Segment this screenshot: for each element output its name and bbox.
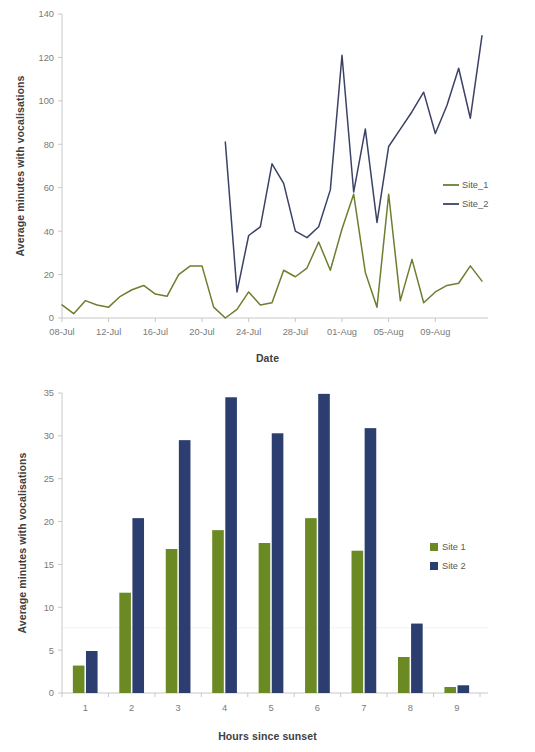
y-tick-label: 100 (38, 96, 54, 106)
bar-site2-hour-5 (272, 433, 284, 693)
x-tick-label: 05-Aug (374, 327, 404, 337)
bar-chart-y-axis-title: Average minutes with vocalisations (16, 453, 28, 634)
bar-chart-figure: 05101520253035123456789Site 1Site 2 Aver… (0, 375, 535, 752)
y-tick-label: 120 (38, 53, 54, 63)
x-tick-label: 28-Jul (283, 327, 308, 337)
legend-label-site_2: Site_2 (462, 199, 488, 209)
x-tick-label: 2 (129, 703, 134, 713)
x-tick-label: 16-Jul (143, 327, 168, 337)
legend-label-site-1: Site 1 (442, 542, 466, 552)
bar-site2-hour-7 (365, 428, 377, 693)
y-tick-label: 80 (44, 140, 54, 150)
y-tick-label: 30 (44, 431, 54, 441)
bar-site2-hour-2 (132, 518, 144, 693)
x-tick-label: 12-Jul (96, 327, 121, 337)
x-tick-label: 1 (83, 703, 88, 713)
x-tick-label: 3 (176, 703, 181, 713)
bar-site1-hour-7 (352, 551, 364, 693)
y-tick-label: 25 (44, 474, 54, 484)
legend-swatch-site-1 (430, 543, 438, 551)
bar-site1-hour-6 (305, 518, 317, 693)
bar-site2-hour-1 (86, 651, 98, 693)
line-chart-y-axis-title: Average minutes with vocalisations (14, 76, 26, 257)
y-tick-label: 35 (44, 388, 54, 398)
bar-chart-canvas: 05101520253035123456789Site 1Site 2 (0, 375, 535, 752)
bar-site1-hour-3 (166, 549, 178, 693)
x-tick-label: 20-Jul (189, 327, 214, 337)
line-series-site_2 (225, 36, 482, 292)
y-tick-label: 60 (44, 183, 54, 193)
y-tick-label: 140 (38, 9, 54, 19)
x-tick-label: 6 (315, 703, 320, 713)
y-tick-label: 20 (44, 517, 54, 527)
y-tick-label: 0 (49, 688, 54, 698)
bar-chart-x-axis-title: Hours since sunset (0, 730, 535, 742)
y-tick-label: 20 (44, 270, 54, 280)
y-tick-label: 10 (44, 603, 54, 613)
x-tick-label: 08-Jul (49, 327, 74, 337)
legend-label-site_1: Site_1 (462, 180, 488, 190)
bar-site1-hour-5 (259, 543, 271, 693)
y-tick-label: 5 (49, 646, 54, 656)
chart-page: 02040608010012014008-Jul12-Jul16-Jul20-J… (0, 0, 535, 752)
bar-site1-hour-2 (119, 593, 131, 693)
x-tick-label: 24-Jul (236, 327, 261, 337)
bar-site1-hour-8 (398, 657, 410, 693)
bar-site2-hour-9 (458, 685, 470, 693)
x-tick-label: 5 (268, 703, 273, 713)
legend-swatch-site-2 (430, 562, 438, 570)
bar-site2-hour-8 (411, 624, 423, 693)
line-chart-x-axis-title: Date (0, 352, 535, 364)
bar-site2-hour-4 (225, 397, 237, 693)
line-chart-figure: 02040608010012014008-Jul12-Jul16-Jul20-J… (0, 0, 535, 375)
line-series-site_1 (62, 194, 482, 318)
x-tick-label: 01-Aug (327, 327, 357, 337)
y-tick-label: 15 (44, 560, 54, 570)
x-tick-label: 9 (454, 703, 459, 713)
y-tick-label: 40 (44, 227, 54, 237)
bar-site1-hour-4 (212, 530, 224, 693)
legend-label-site-2: Site 2 (442, 561, 466, 571)
x-tick-label: 7 (361, 703, 366, 713)
x-tick-label: 4 (222, 703, 227, 713)
bar-site1-hour-1 (73, 666, 85, 693)
bar-site2-hour-3 (179, 440, 191, 693)
bar-site2-hour-6 (318, 394, 330, 693)
x-tick-label: 8 (408, 703, 413, 713)
bar-site1-hour-9 (444, 687, 456, 693)
line-chart-canvas: 02040608010012014008-Jul12-Jul16-Jul20-J… (0, 0, 535, 375)
x-tick-label: 09-Aug (420, 327, 450, 337)
y-tick-label: 0 (49, 313, 54, 323)
